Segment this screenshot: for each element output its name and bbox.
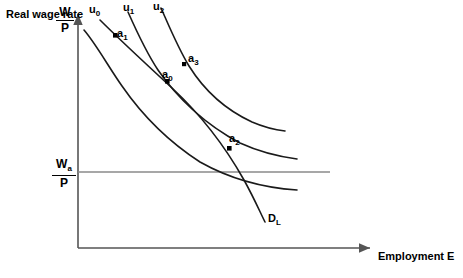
x-axis-label: Employment E — [378, 250, 454, 263]
y-axis-unit-fraction: W P — [56, 6, 74, 35]
curve-label-u1: u1 — [123, 1, 134, 17]
curve-dl — [100, 20, 265, 222]
y-axis-description: Real wage rate — [6, 8, 52, 21]
point-marker-a3 — [182, 62, 186, 66]
curve-u2 — [161, 8, 285, 131]
wage-reference-numerator: Wa — [52, 158, 76, 174]
curve-label-dl: DL — [268, 212, 281, 228]
point-label-a0: a0 — [162, 68, 173, 84]
point-label-a3: a3 — [188, 52, 199, 68]
figure-canvas: Real wage rate W P Wa P u0 u1 u2 DL a1 a… — [0, 0, 463, 278]
y-axis-denominator: P — [56, 22, 74, 35]
curve-label-u0: u0 — [89, 3, 100, 19]
curve-label-u2: u2 — [153, 0, 164, 16]
wage-reference-denominator: P — [52, 177, 76, 190]
point-label-a2: a2 — [229, 132, 240, 148]
curve-u1 — [128, 12, 297, 159]
y-axis-numerator: W — [56, 6, 74, 19]
wage-reference-fraction: Wa P — [52, 158, 76, 190]
point-label-a1: a1 — [117, 27, 128, 43]
